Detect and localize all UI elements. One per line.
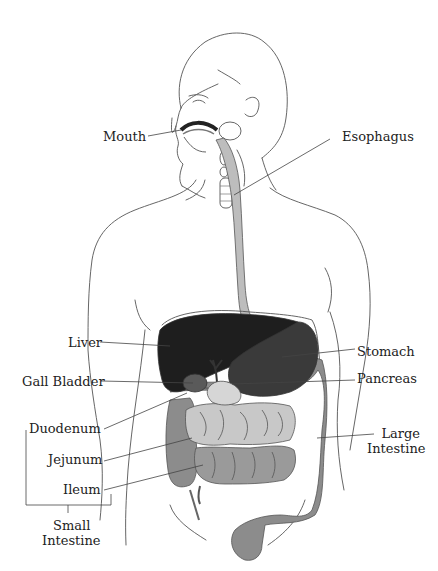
ileum-organ bbox=[195, 446, 296, 484]
label-large-intestine-line2: Intestine bbox=[367, 441, 426, 456]
label-small-intestine: Small Intestine bbox=[43, 518, 101, 548]
label-pancreas: Pancreas bbox=[357, 371, 417, 386]
label-mouth: Mouth bbox=[103, 129, 146, 144]
label-large-intestine-line1: Large bbox=[376, 426, 426, 441]
jejunum-organ bbox=[185, 403, 295, 445]
label-jejunum: Jejunum bbox=[48, 452, 102, 467]
label-esophagus: Esophagus bbox=[342, 129, 414, 144]
label-small-intestine-line1: Small bbox=[43, 518, 101, 533]
label-liver: Liver bbox=[68, 335, 102, 350]
mouth-cavity bbox=[181, 123, 217, 152]
label-small-intestine-line2: Intestine bbox=[42, 533, 101, 548]
label-duodenum: Duodenum bbox=[29, 421, 101, 436]
label-stomach: Stomach bbox=[357, 344, 415, 359]
label-ileum: Ileum bbox=[63, 482, 101, 497]
label-gall-bladder: Gall Bladder bbox=[22, 374, 105, 389]
esophagus-organ bbox=[216, 138, 252, 322]
label-large-intestine: Large Intestine bbox=[376, 426, 426, 456]
